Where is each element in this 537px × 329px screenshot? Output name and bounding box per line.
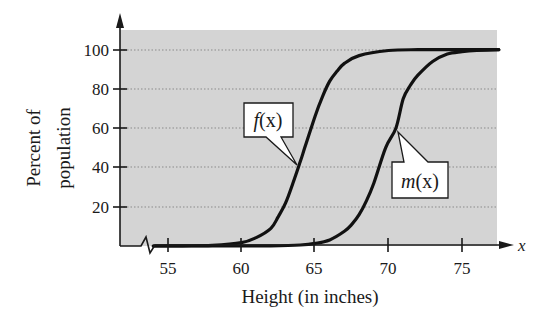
y-axis-title-line1: Percent of — [23, 109, 44, 187]
x-axis-variable: x — [517, 236, 526, 255]
y-axis-title-line2: population — [53, 107, 74, 189]
y-tick-label-80: 80 — [92, 80, 109, 99]
y-tick-label-40: 40 — [92, 158, 109, 177]
y-tick-label-100: 100 — [84, 41, 110, 60]
x-axis-title: Height (in inches) — [241, 286, 378, 308]
x-tick-label-70: 70 — [380, 259, 397, 278]
y-axis: 100 80 60 40 20 — [84, 13, 128, 246]
y-axis-title: Percent of population — [23, 107, 74, 189]
x-tick-label-65: 65 — [306, 259, 323, 278]
x-tick-label-60: 60 — [233, 259, 250, 278]
y-axis-arrow-icon — [116, 13, 124, 28]
y-tick-label-60: 60 — [92, 119, 109, 138]
callout-m-label: m(x) — [401, 170, 439, 193]
y-tick-label-20: 20 — [92, 198, 109, 217]
callout-f-label: f(x) — [254, 109, 283, 132]
x-tick-label-75: 75 — [454, 259, 471, 278]
x-tick-label-55: 55 — [160, 259, 177, 278]
x-axis-arrow-icon — [499, 241, 514, 249]
chart: 100 80 60 40 20 x 55 60 65 70 75 Height … — [0, 0, 537, 329]
